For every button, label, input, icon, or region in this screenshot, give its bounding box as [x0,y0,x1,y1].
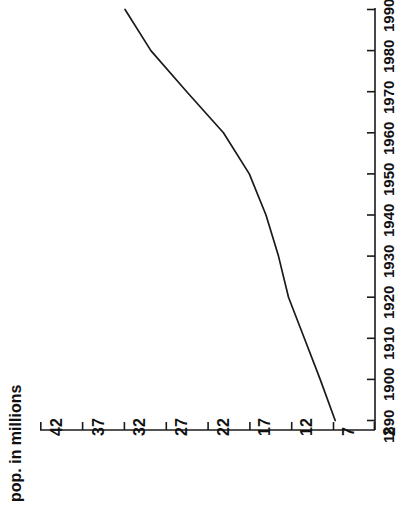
value-tick-label: 22 [216,418,232,436]
year-tick-label: 1960 [381,121,396,154]
year-tick-label: 1940 [381,204,396,237]
value-axis-title: pop. in millions [8,385,24,502]
value-tick-label: 17 [257,418,273,436]
year-tick-label: 1910 [381,327,396,360]
year-tick-label: 1900 [381,368,396,401]
year-tick-label: 1990 [381,0,396,32]
value-tick-label: 7 [341,427,357,436]
population-series-line [125,10,335,421]
year-tick-label: 1890 [381,409,396,442]
value-tick-label: 37 [91,418,107,436]
year-tick-label: 1980 [381,39,396,72]
value-tick-label: 42 [49,418,65,436]
year-tick-label: 1970 [381,80,396,113]
year-tick-label: 1920 [381,286,396,319]
year-tick-label: 1930 [381,245,396,278]
year-axis-ticks [367,10,375,421]
population-line-chart: 4237322722171272 19901980197019601950194… [0,0,415,506]
year-tick-label: 1950 [381,163,396,196]
value-tick-label: 32 [132,418,148,436]
value-tick-label: 12 [299,418,315,436]
value-tick-label: 27 [174,418,190,436]
